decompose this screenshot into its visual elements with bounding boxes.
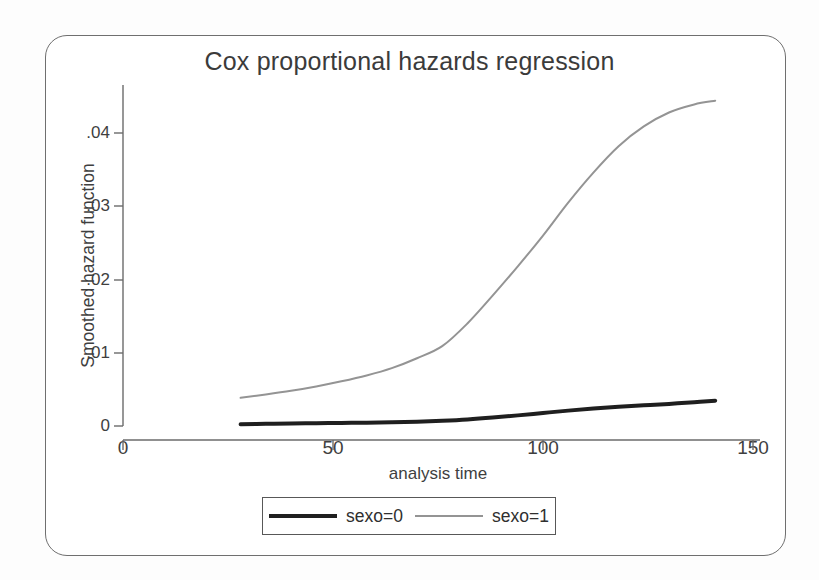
legend-label: sexo=1 [492,506,549,527]
series-line-sexo-1 [241,101,716,398]
data-series-layer [241,101,716,424]
x-tick-marks [123,440,753,450]
series-line-sexo-0 [241,401,716,424]
plot-canvas [0,0,819,580]
chart-figure: Cox proportional hazards regression Smoo… [0,0,819,580]
legend-label: sexo=0 [346,506,403,527]
legend-line-swatch-icon [415,515,483,517]
legend-line-swatch-icon [269,514,337,518]
chart-legend: sexo=0 sexo=1 [262,497,556,535]
y-tick-marks [114,133,123,426]
legend-entry-sexo-1[interactable]: sexo=1 [415,506,549,527]
legend-entry-sexo-0[interactable]: sexo=0 [269,506,403,527]
